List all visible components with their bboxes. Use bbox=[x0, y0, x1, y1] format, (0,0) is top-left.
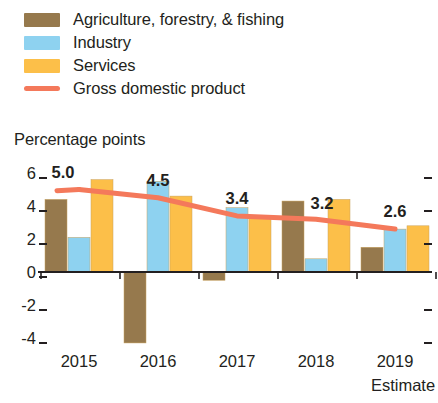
gdp-value-label: 5.0 bbox=[52, 163, 75, 182]
x-axis-label-2018: 2018 bbox=[298, 352, 335, 371]
legend-color-swatch bbox=[24, 13, 60, 27]
y-tick-label: 4 bbox=[6, 197, 36, 216]
bar-2019-agriculture bbox=[361, 247, 383, 272]
x-axis-note-2019: Estimate bbox=[371, 376, 435, 395]
bar-2015-agriculture bbox=[45, 199, 67, 272]
y-tick-dash bbox=[39, 210, 47, 212]
bar-2018-industry bbox=[305, 259, 327, 272]
x-axis-labels: 20152016201720182019Estimate bbox=[0, 352, 438, 402]
y-tick-label: 2 bbox=[6, 230, 36, 249]
gdp-value-label: 3.4 bbox=[226, 189, 249, 208]
y-tick-dash-right bbox=[424, 243, 432, 245]
chart-legend: Agriculture, forestry, & fishingIndustry… bbox=[24, 8, 424, 100]
x-axis-label-2015: 2015 bbox=[61, 352, 98, 371]
y-tick-dash bbox=[39, 342, 47, 344]
y-tick-dash-right bbox=[424, 177, 432, 179]
x-axis-label-2016: 2016 bbox=[140, 352, 177, 371]
x-axis-label-2019: 2019 bbox=[377, 352, 414, 371]
y-tick-dash-right bbox=[424, 309, 432, 311]
bar-2017-agriculture bbox=[203, 272, 225, 280]
gdp-value-label: 4.5 bbox=[147, 171, 170, 190]
y-tick-dash-right bbox=[424, 342, 432, 344]
legend-item-label: Gross domestic product bbox=[73, 79, 245, 98]
y-tick-dash bbox=[39, 177, 47, 179]
legend-line-marker bbox=[24, 82, 60, 96]
legend-item-label: Agriculture, forestry, & fishing bbox=[73, 10, 284, 29]
bar-2019-industry bbox=[384, 229, 406, 272]
bar-2016-agriculture bbox=[124, 272, 146, 343]
gdp-line-lead bbox=[57, 190, 79, 191]
plot-area: 6420-2-45.04.53.43.22.6 bbox=[0, 160, 438, 350]
legend-line-swatch bbox=[24, 86, 60, 91]
legend-item-label: Services bbox=[73, 56, 135, 75]
y-tick-dash bbox=[39, 276, 47, 278]
bar-2019-services bbox=[407, 226, 429, 272]
y-tick-dash bbox=[39, 309, 47, 311]
legend-gdp: Gross domestic product bbox=[24, 77, 424, 100]
legend-color-swatch bbox=[24, 36, 60, 50]
y-tick-label: -4 bbox=[6, 329, 36, 348]
legend-services: Services bbox=[24, 54, 424, 77]
legend-color-swatch bbox=[24, 59, 60, 73]
y-tick-label: -2 bbox=[6, 296, 36, 315]
gdp-value-label: 3.2 bbox=[311, 194, 334, 213]
bar-2015-industry bbox=[68, 237, 90, 272]
legend-item-label: Industry bbox=[73, 33, 131, 52]
y-tick-label: 6 bbox=[6, 164, 36, 183]
y-tick-label: 0 bbox=[6, 263, 36, 282]
legend-industry: Industry bbox=[24, 31, 424, 54]
plot-svg bbox=[0, 160, 438, 350]
legend-agriculture: Agriculture, forestry, & fishing bbox=[24, 8, 424, 31]
y-tick-dash-right bbox=[424, 210, 432, 212]
bar-2018-agriculture bbox=[282, 201, 304, 272]
gdp-value-label: 2.6 bbox=[384, 202, 407, 221]
bar-2017-services bbox=[249, 218, 271, 272]
bar-2016-services bbox=[170, 196, 192, 272]
x-axis-label-2017: 2017 bbox=[219, 352, 256, 371]
y-axis-title: Percentage points bbox=[14, 130, 145, 149]
y-tick-dash bbox=[39, 243, 47, 245]
